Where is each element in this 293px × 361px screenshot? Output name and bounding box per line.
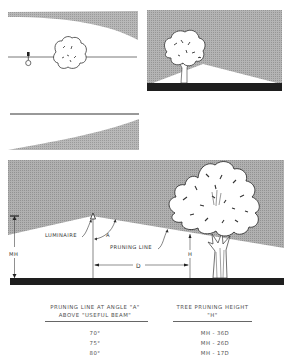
luminaire-plan-icon — [26, 52, 31, 66]
table-header-height: TREE PRUNING HEIGHT "H" — [170, 303, 255, 319]
plan-view-top-panel — [0, 0, 145, 100]
table-header-height-line2: "H" — [170, 311, 255, 319]
table-rule-right — [173, 321, 252, 322]
light-distribution-curve-top — [8, 11, 138, 40]
table-row-3-angle: 80° — [80, 350, 110, 356]
pruning-height-label: H — [188, 251, 192, 257]
ground-main — [10, 278, 284, 285]
luminaire-label: LUMINAIRE — [45, 232, 77, 238]
angle-a-label: A — [106, 232, 110, 238]
mounting-height-label: MH — [9, 251, 18, 257]
ground — [147, 83, 282, 91]
table-header-angle-line1: PRUNING LINE AT ANGLE "A" — [40, 303, 150, 311]
tree-crown-plan-icon — [54, 37, 87, 69]
table-header-height-line1: TREE PRUNING HEIGHT — [170, 303, 255, 311]
table-header-angle-line2: ABOVE "USEFUL BEAM" — [40, 311, 150, 319]
table-row-3-height: MH - 17D — [190, 350, 240, 356]
table-row-1-height: MH - 36D — [190, 330, 240, 336]
table-row-2-angle: 75° — [80, 340, 110, 346]
table-row-1-angle: 70° — [80, 330, 110, 336]
distance-label: D — [136, 262, 141, 269]
table-rule-left — [45, 321, 148, 322]
table-row-2-height: MH - 26D — [190, 340, 240, 346]
main-elevation-panel — [0, 150, 293, 285]
plan-view-bottom-panel — [0, 100, 145, 150]
elevation-small-panel — [145, 0, 293, 100]
light-distribution-curve-bottom — [8, 119, 139, 150]
table-header-angle: PRUNING LINE AT ANGLE "A" ABOVE "USEFUL … — [40, 303, 150, 319]
pruning-line-label: PRUNING LINE — [110, 244, 152, 250]
